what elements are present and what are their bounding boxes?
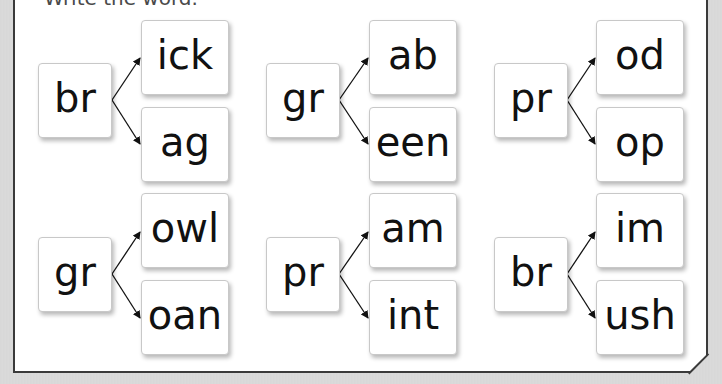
rime-card: een bbox=[369, 107, 457, 182]
rime-text: ush bbox=[604, 295, 676, 341]
onset-text: br bbox=[510, 252, 552, 298]
rime-card: ush bbox=[596, 280, 684, 355]
rime-card: oan bbox=[141, 280, 229, 355]
onset-text: gr bbox=[282, 78, 324, 124]
rime-text: oan bbox=[148, 295, 222, 341]
rime-text: op bbox=[615, 122, 665, 168]
onset-text: br bbox=[54, 78, 96, 124]
rime-card: owl bbox=[141, 193, 229, 268]
onset-card: br bbox=[38, 63, 112, 138]
rime-card: int bbox=[369, 280, 457, 355]
onset-card: gr bbox=[38, 237, 112, 312]
onset-text: pr bbox=[282, 252, 324, 298]
rime-card: od bbox=[596, 20, 684, 95]
onset-text: gr bbox=[54, 252, 96, 298]
rime-text: ag bbox=[160, 122, 210, 168]
instruction-text: Write the word. bbox=[44, 0, 198, 10]
rime-card: am bbox=[369, 193, 457, 268]
rime-text: od bbox=[615, 35, 665, 81]
rime-text: een bbox=[376, 122, 451, 168]
rime-card: ag bbox=[141, 107, 229, 182]
rime-card: ick bbox=[141, 20, 229, 95]
rime-text: am bbox=[381, 208, 444, 254]
onset-card: gr bbox=[266, 63, 340, 138]
rime-text: int bbox=[387, 295, 439, 341]
onset-card: br bbox=[494, 237, 568, 312]
onset-text: pr bbox=[510, 78, 552, 124]
rime-text: ab bbox=[388, 35, 438, 81]
rime-text: im bbox=[615, 208, 665, 254]
rime-card: im bbox=[596, 193, 684, 268]
rime-card: op bbox=[596, 107, 684, 182]
rime-card: ab bbox=[369, 20, 457, 95]
rime-text: owl bbox=[151, 208, 219, 254]
onset-card: pr bbox=[494, 63, 568, 138]
onset-card: pr bbox=[266, 237, 340, 312]
rime-text: ick bbox=[157, 35, 213, 81]
